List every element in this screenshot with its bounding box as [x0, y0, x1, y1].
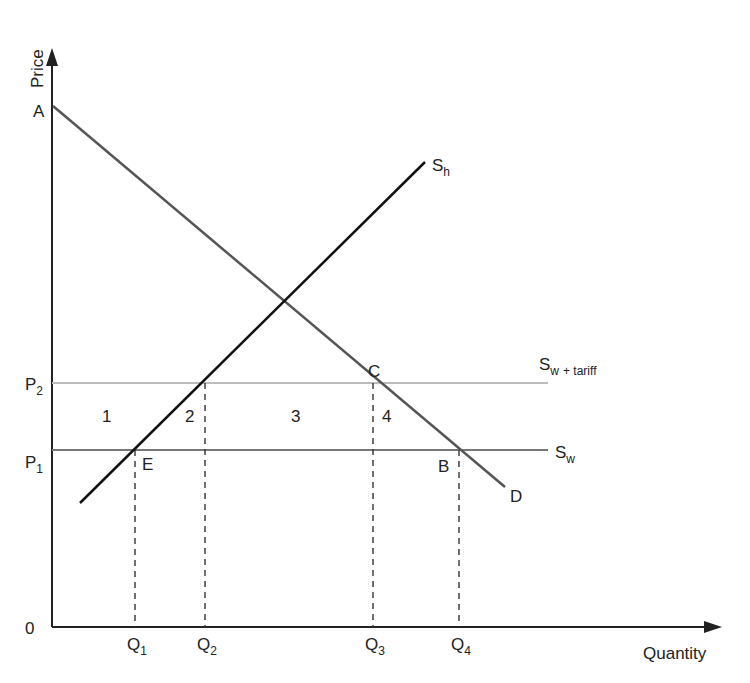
point-e-label: E: [142, 455, 153, 474]
p1-label: P1: [25, 453, 43, 476]
x-axis-arrow-icon: [704, 621, 722, 633]
tariff-diagram: Price A P2 P1 0 Q1 Q2 Q3 Q4 Quantity Sh …: [0, 0, 750, 683]
p2-label: P2: [25, 375, 43, 398]
area-2-label: 2: [185, 407, 194, 426]
y-axis-label: Price: [28, 49, 47, 88]
q1-label: Q1: [127, 635, 147, 658]
x-axis-label: Quantity: [643, 644, 707, 663]
area-3-label: 3: [291, 407, 300, 426]
origin-label: 0: [25, 619, 34, 638]
sh-label: Sh: [432, 156, 450, 179]
q4-label: Q4: [451, 635, 471, 658]
area-4-label: 4: [382, 407, 391, 426]
point-b-label: B: [438, 457, 449, 476]
y-axis-arrow-icon: [46, 48, 58, 66]
area-1-label: 1: [102, 407, 111, 426]
q3-label: Q3: [365, 635, 385, 658]
point-a-label: A: [33, 102, 45, 121]
sw-label: Sw: [555, 443, 575, 466]
q2-label: Q2: [197, 635, 217, 658]
point-c-label: C: [368, 362, 380, 381]
sw-tariff-label: Sw+ tariff: [539, 355, 597, 378]
demand-d-label: D: [510, 487, 522, 506]
